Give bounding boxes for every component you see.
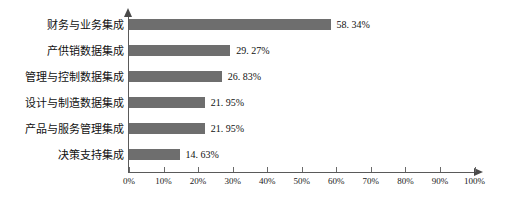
bar-value-label: 58. 34% <box>337 20 370 30</box>
x-axis-tick-label: 50% <box>294 176 311 186</box>
x-axis-tick <box>371 167 372 172</box>
bar-value-label: 21. 95% <box>211 124 244 134</box>
x-axis-tick <box>198 167 199 172</box>
bar-row: 管理与控制数据集成26. 83% <box>0 71 509 82</box>
category-label: 决策支持集成 <box>58 149 124 160</box>
x-axis-tick <box>336 167 337 172</box>
bar-row: 财务与业务集成58. 34% <box>0 19 509 30</box>
x-axis-tick-label: 70% <box>363 176 380 186</box>
x-axis-line <box>128 172 475 173</box>
bar-row: 决策支持集成14. 63% <box>0 149 509 160</box>
x-axis-tick-label: 40% <box>259 176 276 186</box>
bar-value-label: 26. 83% <box>228 72 261 82</box>
category-label: 产供销数据集成 <box>47 45 124 56</box>
x-axis-tick-label: 30% <box>224 176 241 186</box>
x-axis-tick <box>405 167 406 172</box>
x-axis-tick <box>302 167 303 172</box>
bar[interactable] <box>129 19 331 30</box>
x-axis-tick-label: 0% <box>123 176 135 186</box>
x-axis-tick-label: 90% <box>432 176 449 186</box>
x-axis-tick-label: 80% <box>397 176 414 186</box>
x-axis-tick-label: 60% <box>328 176 345 186</box>
x-axis-tick-label: 100% <box>464 176 485 186</box>
bar-row: 产品与服务管理集成21. 95% <box>0 123 509 134</box>
x-axis-tick <box>129 167 130 172</box>
category-label: 管理与控制数据集成 <box>25 71 124 82</box>
x-axis-tick-label: 20% <box>190 176 207 186</box>
bar-value-label: 21. 95% <box>211 98 244 108</box>
bar[interactable] <box>129 71 222 82</box>
x-axis-tick <box>475 167 476 172</box>
bar[interactable] <box>129 45 230 56</box>
bar[interactable] <box>129 97 205 108</box>
category-label: 设计与制造数据集成 <box>25 97 124 108</box>
bar-chart: 0%10%20%30%40%50%60%70%80%90%100% 财务与业务集… <box>0 0 509 208</box>
x-axis-tick <box>267 167 268 172</box>
category-label: 产品与服务管理集成 <box>25 123 124 134</box>
x-axis-tick <box>164 167 165 172</box>
x-axis-tick <box>440 167 441 172</box>
bar[interactable] <box>129 123 205 134</box>
x-axis-tick-label: 10% <box>155 176 172 186</box>
bar[interactable] <box>129 149 180 160</box>
bar-value-label: 14. 63% <box>186 150 219 160</box>
x-axis-tick <box>233 167 234 172</box>
bar-row: 设计与制造数据集成21. 95% <box>0 97 509 108</box>
bar-value-label: 29. 27% <box>236 46 269 56</box>
bar-row: 产供销数据集成29. 27% <box>0 45 509 56</box>
category-label: 财务与业务集成 <box>47 19 124 30</box>
y-axis-arrowhead <box>124 8 132 17</box>
